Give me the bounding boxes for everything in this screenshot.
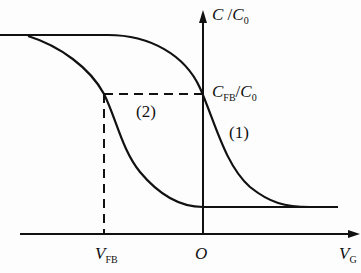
y-axis-arrow-icon [199,10,207,23]
curve-2-label: (2) [136,103,156,120]
x-label-main: V [339,244,349,263]
curve-1-label: (1) [229,124,249,141]
diagram-canvas [0,0,361,273]
y-label-c: C [212,5,223,24]
curve-1 [0,35,338,207]
y-label-sub: 0 [244,15,249,26]
x-axis-label: VG [339,245,357,265]
y-label-sep: / [223,5,232,24]
x-label-sub: G [349,254,356,265]
cfb-den: C [240,82,251,101]
vfb-label: VFB [95,245,118,265]
y-axis-label: C /C0 [212,6,249,26]
cfb-den-sub: 0 [252,92,257,103]
cv-diagram: C /C0 CFB/C0 (1) (2) VFB O VG [0,0,361,273]
y-label-c0: C [232,5,243,24]
cfb-label: CFB/C0 [212,83,257,103]
cfb-main: C [212,82,223,101]
cfb-sub: FB [223,92,235,103]
curve-2 [28,36,203,207]
vfb-sub: FB [105,254,117,265]
origin-label: O [195,245,207,262]
vfb-main: V [95,244,105,263]
x-axis-arrow-icon [348,230,360,238]
